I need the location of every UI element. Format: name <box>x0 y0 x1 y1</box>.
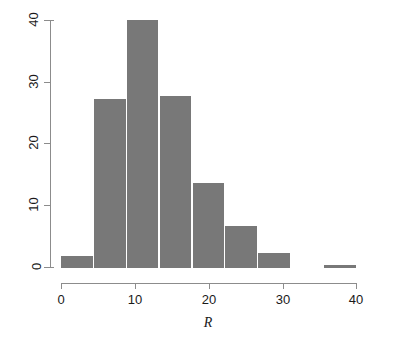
histogram-bar <box>258 253 290 268</box>
y-tick-30 <box>44 82 50 83</box>
y-axis-line <box>50 20 51 268</box>
y-tick-40 <box>44 20 50 21</box>
y-tick-label-30-text: 30 <box>25 74 40 88</box>
histogram-chart: 0 10 20 30 40 0 10 20 30 40 R <box>0 0 416 349</box>
x-tick-40 <box>356 283 357 289</box>
x-axis-title: R <box>0 315 416 331</box>
x-tick-20 <box>209 283 210 289</box>
histogram-bar <box>324 265 356 268</box>
x-tick-10 <box>135 283 136 289</box>
histogram-bar <box>94 99 126 268</box>
x-tick-0 <box>61 283 62 289</box>
x-tick-label-40: 40 <box>336 292 376 307</box>
histogram-bar <box>225 226 257 268</box>
y-tick-label-0-text: 0 <box>29 263 44 270</box>
y-tick-label-20-text: 20 <box>25 135 40 149</box>
y-tick-20 <box>44 143 50 144</box>
x-tick-30 <box>283 283 284 289</box>
y-tick-label-20: 20 <box>0 135 40 150</box>
y-tick-10 <box>44 205 50 206</box>
y-tick-label-30: 30 <box>0 74 40 89</box>
y-axis-bottom-cap <box>50 267 54 268</box>
y-tick-label-40-text: 40 <box>25 12 40 26</box>
y-tick-label-10-text: 10 <box>25 197 40 211</box>
x-tick-label-10: 10 <box>115 292 155 307</box>
x-tick-label-30: 30 <box>263 292 303 307</box>
y-tick-0 <box>44 267 50 268</box>
histogram-bar <box>193 183 225 268</box>
x-tick-label-20: 20 <box>189 292 229 307</box>
histogram-bar <box>61 256 93 268</box>
histogram-bar <box>127 20 159 268</box>
histogram-bar <box>160 96 192 268</box>
y-tick-label-0: 0 <box>0 259 40 274</box>
y-axis-top-cap <box>50 20 54 21</box>
x-tick-label-0: 0 <box>41 292 81 307</box>
y-tick-label-10: 10 <box>0 197 40 212</box>
y-tick-label-40: 40 <box>0 12 40 27</box>
plot-area <box>61 20 357 268</box>
